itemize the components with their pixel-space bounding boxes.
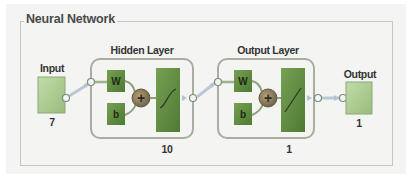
hidden-wire-w-sum bbox=[125, 81, 135, 92]
hidden-sum-label: + bbox=[137, 90, 145, 106]
output-bias-label: b bbox=[240, 109, 246, 120]
output-sum-label: + bbox=[264, 90, 272, 106]
input-port bbox=[63, 95, 70, 102]
hidden-out-port bbox=[190, 95, 197, 102]
output-block bbox=[346, 82, 372, 114]
hidden-bias-label: b bbox=[113, 109, 119, 120]
hidden-weight-label: W bbox=[111, 76, 121, 87]
arrow-icon bbox=[334, 95, 339, 101]
output-wire-b-sum bbox=[252, 104, 263, 115]
output-layer-out-port bbox=[315, 95, 322, 102]
output-layer-size: 1 bbox=[279, 143, 299, 155]
output-label: Output bbox=[341, 68, 379, 80]
hidden-transfer-block bbox=[156, 68, 180, 132]
input-block bbox=[38, 77, 65, 113]
output-port bbox=[340, 95, 347, 102]
output-layer-label: Output Layer bbox=[230, 44, 306, 56]
input-size: 7 bbox=[36, 116, 68, 128]
arrow-icon bbox=[182, 95, 187, 101]
network-diagram: W b + W b + bbox=[0, 0, 413, 180]
hidden-in-port bbox=[88, 79, 95, 86]
hidden-wire-b-sum bbox=[125, 104, 136, 115]
hidden-layer-size: 10 bbox=[152, 143, 182, 155]
output-size: 1 bbox=[349, 117, 369, 129]
output-weight-label: W bbox=[238, 76, 248, 87]
hidden-layer-label: Hidden Layer bbox=[100, 44, 184, 56]
output-layer-in-port bbox=[215, 79, 222, 86]
arrow-icon bbox=[307, 95, 312, 101]
input-label: Input bbox=[36, 62, 68, 74]
output-wire-w-sum bbox=[252, 81, 262, 92]
